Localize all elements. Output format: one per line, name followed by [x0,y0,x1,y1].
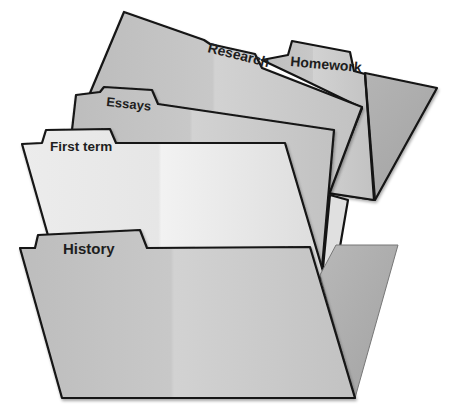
history-label: History [63,240,115,257]
folders-illustration: Homework Research Essays First term Hist… [0,0,457,415]
history-folder[interactable]: History [20,230,355,398]
first-term-label: First term [50,139,112,154]
